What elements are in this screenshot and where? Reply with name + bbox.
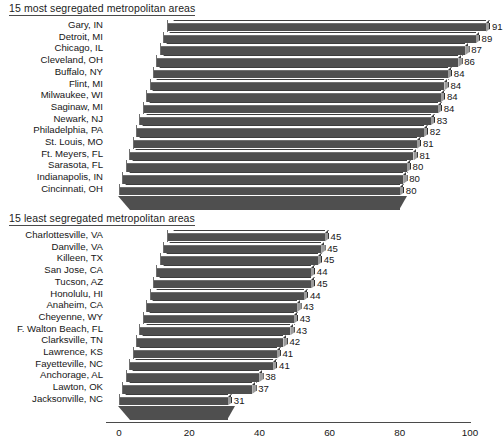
axis-left-edge [153, 277, 154, 289]
axis-left-edge [122, 172, 123, 184]
bar-front-face [129, 362, 273, 370]
axis-left-edge [139, 114, 140, 126]
value-label: 80 [413, 161, 424, 172]
bar [129, 359, 273, 371]
category-label: San Jose, CA [3, 264, 103, 275]
category-label: Tucson, AZ [3, 276, 103, 287]
bar [136, 125, 424, 137]
bar-front-face [143, 315, 294, 323]
value-label: 87 [471, 44, 482, 55]
bar-front-face [163, 245, 321, 253]
value-label: 44 [310, 290, 321, 301]
axis-left-edge [133, 137, 134, 149]
bar-front-face [163, 35, 475, 43]
category-label: Cheyenne, WY [3, 311, 103, 322]
axis-left-edge [136, 125, 137, 137]
x-axis-tick-label: 40 [254, 427, 265, 438]
axis-left-edge [153, 67, 154, 79]
category-label: Killeen, TX [3, 252, 103, 263]
axis-left-edge [163, 32, 164, 44]
bar [146, 300, 297, 312]
category-label: Sarasota, FL [3, 159, 103, 170]
axis-left-edge [143, 102, 144, 114]
value-label: 81 [420, 150, 431, 161]
bar-front-face [156, 268, 310, 276]
bar [146, 90, 441, 102]
bar-front-face [146, 93, 441, 101]
value-label: 41 [279, 360, 290, 371]
value-label: 83 [437, 115, 448, 126]
chart-least-segregated: 15 least segregated metropolitan areas C… [0, 210, 479, 434]
chart-base-bevel-left [118, 196, 130, 210]
chart-base-bevel-right [227, 406, 235, 420]
category-label: Saginaw, MI [3, 101, 103, 112]
bar-front-face [153, 280, 311, 288]
bar [160, 253, 318, 265]
category-label: Jacksonville, NC [3, 393, 103, 404]
category-label: Ft. Meyers, FL [3, 148, 103, 159]
value-label: 81 [423, 138, 434, 149]
bar [122, 172, 403, 184]
axis-left-edge [122, 382, 123, 394]
category-label: Clarksville, TN [3, 334, 103, 345]
axis-left-edge [163, 242, 164, 254]
value-label: 43 [303, 301, 314, 312]
chart-title-least: 15 least segregated metropolitan areas [9, 212, 195, 226]
category-label: Lawton, OK [3, 381, 103, 392]
axis-left-edge [129, 149, 130, 161]
category-label: Charlottesville, VA [3, 229, 103, 240]
axis-left-edge [167, 230, 168, 242]
bar-front-face [119, 187, 400, 195]
axis-left-edge [167, 20, 168, 32]
bar-front-face [126, 163, 407, 171]
bar [150, 289, 304, 301]
value-label: 43 [296, 325, 307, 336]
bar [167, 230, 325, 242]
bar-front-face [150, 292, 304, 300]
bar [126, 370, 259, 382]
x-axis-tick-label: 100 [462, 427, 478, 438]
value-label: 45 [331, 231, 342, 242]
axis-left-edge [129, 359, 130, 371]
axis-left-edge [150, 289, 151, 301]
chart-most-segregated: 15 most segregated metropolitan areas Ga… [0, 0, 479, 212]
value-label: 44 [317, 266, 328, 277]
axis-left-edge [136, 335, 137, 347]
category-label: Anchorage, AL [3, 369, 103, 380]
axis-left-edge [156, 55, 157, 67]
bar-front-face [160, 46, 465, 54]
bar [122, 382, 252, 394]
chart-title-most: 15 most segregated metropolitan areas [9, 2, 195, 16]
bar [143, 102, 438, 114]
bar-row: Cincinnati, OH80 [0, 184, 479, 196]
bar-front-face [150, 82, 445, 90]
category-label: Chicago, IL [3, 42, 103, 53]
value-label: 38 [265, 371, 276, 382]
bar-front-face [129, 152, 413, 160]
bar-front-face [167, 23, 486, 31]
bar [163, 32, 475, 44]
value-label: 45 [317, 278, 328, 289]
bar-front-face [139, 327, 290, 335]
axis-left-edge [160, 43, 161, 55]
value-label: 84 [450, 80, 461, 91]
value-label: 37 [258, 383, 269, 394]
bar [153, 277, 311, 289]
bar [156, 265, 310, 277]
category-label: Lawrence, KS [3, 346, 103, 357]
value-label: 84 [447, 91, 458, 102]
category-label: F. Walton Beach, FL [3, 323, 103, 334]
category-label: St. Louis, MO [3, 136, 103, 147]
chart-base-bevel-right [399, 196, 407, 210]
value-label: 31 [234, 395, 245, 406]
category-label: Newark, NJ [3, 113, 103, 124]
bar-front-face [119, 397, 228, 405]
bar-front-face [136, 338, 283, 346]
value-label: 91 [492, 21, 503, 32]
category-label: Gary, IN [3, 19, 103, 30]
value-label: 86 [464, 56, 475, 67]
category-label: Danville, VA [3, 241, 103, 252]
value-label: 89 [482, 33, 493, 44]
value-label: 45 [327, 243, 338, 254]
axis-left-edge [150, 79, 151, 91]
